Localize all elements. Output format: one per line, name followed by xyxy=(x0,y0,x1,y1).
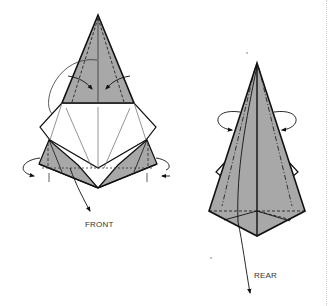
front-left-loop-arrow xyxy=(23,158,40,176)
page-edge-dotted-line xyxy=(326,0,327,306)
front-label: FRONT xyxy=(85,220,114,229)
rear-label: REAR xyxy=(254,271,277,280)
rear-down-arrow xyxy=(238,222,250,293)
rear-figure xyxy=(209,52,305,293)
origami-diagram: FRONT REAR xyxy=(0,0,336,306)
front-figure xyxy=(23,15,170,211)
